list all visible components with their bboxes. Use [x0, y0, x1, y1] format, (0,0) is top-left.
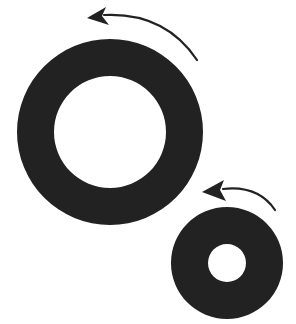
diagram-canvas	[0, 0, 296, 324]
